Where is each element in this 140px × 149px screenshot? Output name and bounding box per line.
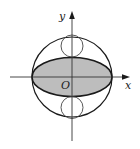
origin-label: O xyxy=(61,79,70,92)
y-axis-label: y xyxy=(58,10,66,23)
geometry-diagram: y x O xyxy=(0,0,140,149)
x-axis-label: x xyxy=(125,79,132,92)
y-axis-arrow-icon xyxy=(69,11,75,19)
